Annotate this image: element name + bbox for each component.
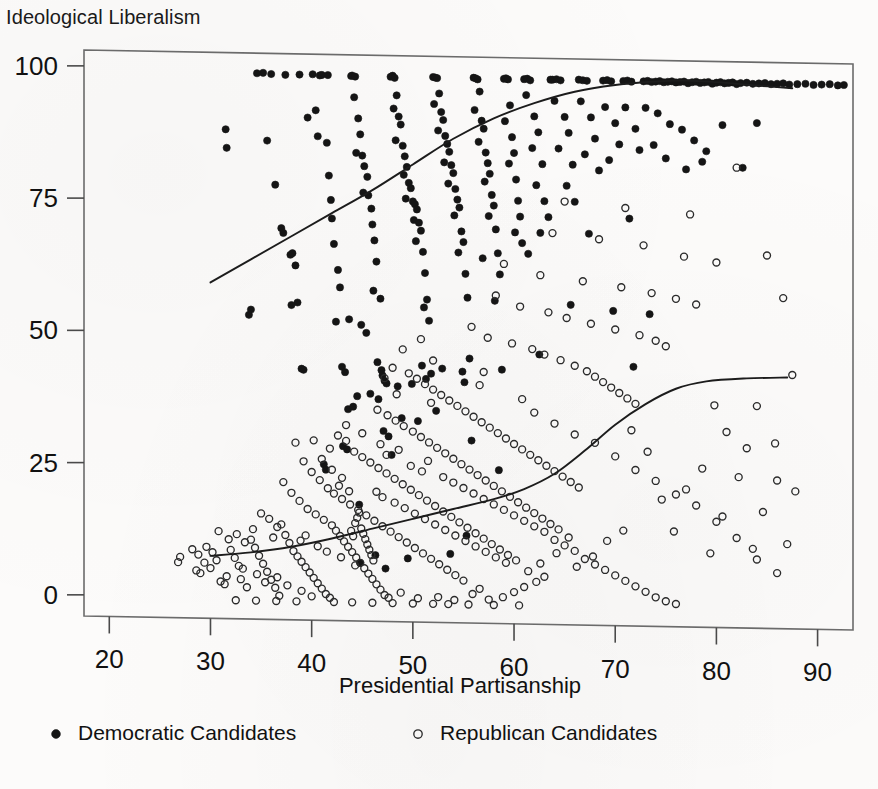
data-point-democratic [385,433,392,440]
data-point-republican [310,437,317,444]
data-point-democratic [496,271,503,278]
data-point-republican [465,601,472,608]
data-point-republican [723,428,730,435]
data-point-democratic [632,125,639,132]
data-point-republican [516,602,523,609]
data-point-democratic [612,120,619,127]
data-point-republican [719,513,726,520]
data-point-democratic [610,307,617,314]
x-tick-label: 20 [95,644,124,674]
data-point-republican [399,481,406,488]
data-point-democratic [404,555,411,562]
data-point-republican [300,458,307,465]
data-point-republican [589,553,596,560]
data-point-democratic [436,90,443,97]
data-point-republican [343,437,350,444]
data-point-republican [326,445,333,452]
data-point-republican [254,571,261,578]
data-point-republican [571,362,578,369]
data-point-republican [753,556,760,563]
data-point-democratic [399,142,406,149]
data-point-republican [632,583,639,590]
data-point-democratic [413,206,420,213]
data-point-republican [529,346,536,353]
data-point-republican [282,532,289,539]
data-point-democratic [492,226,499,233]
data-point-republican [713,518,720,525]
data-point-republican [448,513,455,520]
data-point-republican [415,492,422,499]
data-point-republican [573,563,580,570]
data-point-republican [531,510,538,517]
data-point-republican [687,211,694,218]
data-point-republican [400,423,407,430]
data-point-democratic [485,212,492,219]
data-point-republican [426,439,433,446]
data-point-republican [490,482,497,489]
data-point-republican [498,488,505,495]
data-point-republican [652,477,659,484]
data-point-republican [374,406,381,413]
data-point-republican [541,351,548,358]
data-point-republican [644,448,651,455]
data-point-democratic [504,76,511,83]
data-point-republican [330,599,337,606]
data-point-democratic [363,329,370,336]
data-point-democratic [826,81,833,88]
data-point-republican [494,430,501,437]
data-point-republican [383,451,390,458]
data-point-democratic [571,198,578,205]
data-point-democratic [818,81,825,88]
data-points [175,69,848,609]
data-point-republican [476,585,483,592]
data-point-republican [403,539,410,546]
data-point-republican [533,578,540,585]
data-point-democratic [332,318,339,325]
x-tick-label: 30 [196,646,225,676]
data-point-democratic [377,295,384,302]
data-point-republican [743,445,750,452]
data-point-republican [683,486,690,493]
data-point-democratic [561,113,568,120]
data-point-democratic [368,205,375,212]
data-point-democratic [508,134,515,141]
data-point-republican [330,490,337,497]
data-point-republican [409,428,416,435]
data-point-republican [749,545,756,552]
data-point-democratic [420,304,427,311]
x-tick-label: 70 [601,654,630,684]
data-point-democratic [328,215,335,222]
data-point-republican [445,601,452,608]
data-point-republican [567,479,574,486]
data-point-republican [519,396,526,403]
data-point-republican [693,502,700,509]
data-point-democratic [475,138,482,145]
data-point-republican [272,584,279,591]
data-point-republican [379,494,386,501]
data-point-democratic [343,446,350,453]
data-point-democratic [577,98,584,105]
data-point-republican [658,496,665,503]
data-point-republican [434,444,441,451]
legend-marker-republican [414,730,422,738]
data-point-republican [640,242,647,249]
data-point-democratic [395,113,402,120]
data-point-democratic [602,103,609,110]
data-point-republican [468,323,475,330]
data-point-republican [369,599,376,606]
data-point-democratic [431,100,438,107]
data-point-republican [203,543,210,550]
data-point-democratic [490,202,497,209]
data-point-republican [258,510,265,517]
data-point-republican [351,448,358,455]
data-point-democratic [456,204,463,211]
data-point-republican [472,530,479,537]
data-point-democratic [402,195,409,202]
data-point-republican [359,454,366,461]
data-point-democratic [375,396,382,403]
data-point-republican [387,528,394,535]
data-point-democratic [606,156,613,163]
data-point-republican [286,540,293,547]
data-point-republican [496,546,503,553]
data-point-democratic [440,116,447,123]
